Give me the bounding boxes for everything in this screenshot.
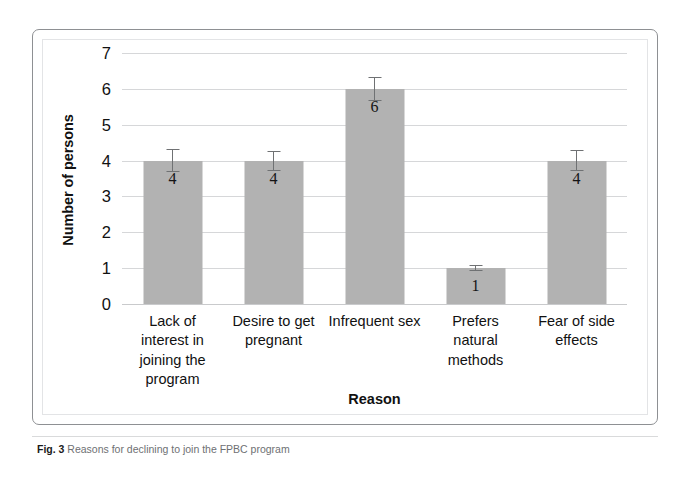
y-axis-tick-label: 4	[102, 151, 111, 170]
bar-value-label: 4	[169, 170, 177, 188]
bars-group: 44614	[122, 53, 627, 304]
y-axis-title: Number of persons	[60, 100, 76, 260]
x-axis-category-label: Infrequent sex	[324, 312, 425, 331]
error-bar-cap	[368, 77, 381, 78]
plot-area: 01234567 44614	[122, 53, 627, 304]
error-bar-stem	[374, 77, 375, 101]
bar[interactable]: 4	[143, 161, 202, 304]
y-axis-tick-label: 2	[102, 223, 111, 242]
caption-label: Fig. 3	[37, 443, 64, 455]
bar-slot: 4	[223, 53, 324, 304]
error-bar-cap	[570, 150, 583, 151]
bar[interactable]: 4	[547, 161, 606, 304]
y-axis-tick-label: 7	[102, 44, 111, 63]
x-axis-category-label: Fear of sideeffects	[526, 312, 627, 351]
error-bar-cap	[469, 265, 482, 266]
bar[interactable]: 1	[446, 268, 505, 304]
x-axis-category-label: Prefersnaturalmethods	[425, 312, 526, 370]
x-axis-category-label: Lack ofinterest injoining theprogram	[122, 312, 223, 389]
bar-slot: 4	[526, 53, 627, 304]
error-bar	[267, 151, 280, 171]
bar-slot: 4	[122, 53, 223, 304]
x-axis-title: Reason	[122, 391, 627, 407]
error-bar-stem	[576, 150, 577, 172]
y-axis-tick-label: 5	[102, 115, 111, 134]
figure-caption: Fig. 3 Reasons for declining to join the…	[37, 443, 637, 455]
bar-value-label: 4	[270, 170, 278, 188]
error-bar-cap	[166, 149, 179, 150]
error-bar-cap	[469, 270, 482, 271]
bar[interactable]: 6	[345, 89, 404, 304]
bar-value-label: 1	[472, 277, 480, 295]
error-bar-cap	[166, 171, 179, 172]
y-axis-tick-label: 6	[102, 79, 111, 98]
error-bar-cap	[267, 151, 280, 152]
x-axis-category-labels: Lack ofinterest injoining theprogramDesi…	[122, 312, 627, 397]
error-bar-cap	[570, 170, 583, 171]
caption-text: Reasons for declining to join the FPBC p…	[67, 443, 289, 455]
error-bar	[570, 150, 583, 172]
y-axis-tick-label: 1	[102, 259, 111, 278]
y-axis-tick-label: 0	[102, 295, 111, 314]
error-bar-cap	[368, 100, 381, 101]
error-bar-cap	[267, 170, 280, 171]
error-bar	[469, 265, 482, 271]
bar-chart: Number of persons 01234567 44614 Lack of…	[33, 30, 659, 426]
error-bar	[368, 77, 381, 101]
bar[interactable]: 4	[244, 161, 303, 304]
figure-frame: Number of persons 01234567 44614 Lack of…	[32, 29, 658, 425]
bar-value-label: 4	[573, 170, 581, 188]
y-axis-tick-label: 3	[102, 187, 111, 206]
caption-divider	[32, 436, 658, 437]
x-axis-category-label: Desire to getpregnant	[223, 312, 324, 351]
error-bar	[166, 149, 179, 172]
error-bar-stem	[172, 149, 173, 172]
error-bar-stem	[273, 151, 274, 171]
bar-slot: 6	[324, 53, 425, 304]
gridline	[122, 304, 627, 305]
bar-slot: 1	[425, 53, 526, 304]
